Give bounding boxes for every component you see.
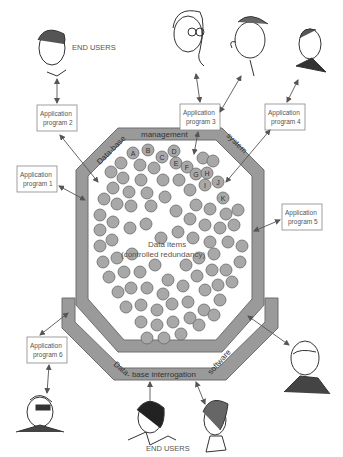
data-item-circle	[115, 157, 127, 169]
user-portrait-top-right-icon	[296, 29, 326, 72]
data-item-letter: A	[131, 150, 136, 157]
data-item-circle	[172, 226, 184, 238]
data-item-circle	[120, 301, 132, 313]
data-item-circle	[207, 155, 219, 167]
data-item-circle	[184, 213, 196, 225]
data-item-circle	[106, 234, 118, 246]
data-item-circle	[135, 316, 147, 328]
program-box-4: Application program 4	[265, 104, 305, 130]
data-item-letter: D	[171, 148, 176, 155]
data-item-circle	[191, 270, 203, 282]
core-label-line1: Data items	[148, 240, 186, 249]
data-item-circle	[190, 199, 202, 211]
data-item-circle	[140, 218, 152, 230]
svg-text:program 3: program 3	[186, 118, 216, 126]
program-box-5: Application program 5	[282, 204, 322, 230]
svg-text:Application: Application	[285, 209, 317, 217]
data-item-circle	[158, 332, 170, 344]
data-item-circle	[107, 216, 119, 228]
data-item-circle	[123, 186, 135, 198]
data-item-circle	[177, 280, 189, 292]
data-item-circle	[184, 184, 196, 196]
end-users-label-top: END USERS	[72, 43, 116, 52]
data-item-circle	[94, 209, 106, 221]
data-item-circle	[107, 182, 119, 194]
svg-text:program 5: program 5	[288, 218, 318, 226]
svg-text:program 2: program 2	[43, 119, 73, 127]
data-item-letter: F	[185, 164, 189, 171]
data-item-circle	[214, 222, 226, 234]
data-item-circle	[193, 319, 205, 331]
data-item-circle	[214, 294, 226, 306]
program-box-2: Application program 2	[37, 105, 77, 131]
svg-text:Application: Application	[268, 109, 300, 117]
user-portrait-top-left-icon	[38, 30, 66, 76]
data-item-circle	[151, 319, 163, 331]
data-item-circle	[212, 279, 224, 291]
data-item-circle	[228, 219, 240, 231]
data-item-circle	[94, 240, 106, 252]
data-item-circle	[220, 264, 232, 276]
data-item-circle	[180, 259, 192, 271]
data-item-circle	[145, 200, 157, 212]
user-portrait-top-center-left-icon	[173, 11, 204, 66]
data-item-circle	[162, 274, 174, 286]
data-item-circle	[125, 282, 137, 294]
data-item-circle	[204, 236, 216, 248]
data-item-circle	[98, 193, 110, 205]
user-portrait-bottom-right-icon	[284, 341, 330, 394]
data-item-circle	[199, 284, 211, 296]
data-item-circle	[149, 259, 161, 271]
data-item-letter: J	[216, 179, 220, 186]
data-item-circle	[170, 205, 182, 217]
data-item-circle	[117, 172, 129, 184]
data-item-circle	[111, 198, 123, 210]
data-item-circle	[208, 248, 220, 260]
data-item-letter: B	[146, 147, 151, 154]
data-item-circle	[135, 174, 147, 186]
data-item-circle	[134, 159, 146, 171]
data-item-circle	[112, 286, 124, 298]
data-item-circle	[199, 219, 211, 231]
data-item-letter: G	[193, 171, 198, 178]
data-item-circle	[173, 174, 185, 186]
data-item-circle	[187, 232, 199, 244]
data-item-circle	[103, 271, 115, 283]
data-item-circle	[157, 174, 169, 186]
data-item-circle	[105, 166, 117, 178]
data-item-circle	[118, 266, 130, 278]
data-item-circle	[208, 309, 220, 321]
data-item-letter: K	[221, 195, 226, 202]
data-item-circle	[94, 224, 106, 236]
user-portrait-top-center-right-icon	[231, 16, 268, 76]
data-item-circle	[141, 187, 153, 199]
data-item-letter: E	[174, 160, 179, 167]
data-item-circle	[167, 316, 179, 328]
data-item-circle	[157, 288, 169, 300]
band-label-management: management	[141, 130, 188, 139]
data-item-circle	[125, 200, 137, 212]
svg-text:program 1: program 1	[23, 180, 53, 188]
data-item-circle	[124, 222, 136, 234]
data-item-letter: I	[204, 182, 206, 189]
data-item-circle	[206, 264, 218, 276]
data-item-circle	[141, 282, 153, 294]
user-portrait-bottom-center-right-icon	[203, 400, 228, 452]
data-item-circle	[204, 203, 216, 215]
core-label-line2: (controlled redundancy)	[121, 250, 205, 259]
svg-text:program 4: program 4	[271, 118, 301, 126]
program-box-6: Application program 6	[27, 337, 67, 363]
data-item-circle	[148, 162, 160, 174]
data-item-circle	[175, 328, 187, 340]
band-label-interrogation: - base interrogation	[127, 370, 196, 379]
data-item-circle	[151, 304, 163, 316]
data-item-circle	[234, 256, 246, 268]
svg-text:program 6: program 6	[33, 351, 63, 359]
data-item-circle	[232, 204, 244, 216]
data-item-letter: C	[159, 154, 164, 161]
user-portrait-bottom-center-left-icon	[128, 401, 176, 445]
svg-text:Application: Application	[183, 109, 215, 117]
data-item-circle	[135, 299, 147, 311]
data-item-circle	[166, 298, 178, 310]
database-system-diagram: ABCDEFGHIJK Data-base management system …	[0, 0, 343, 457]
